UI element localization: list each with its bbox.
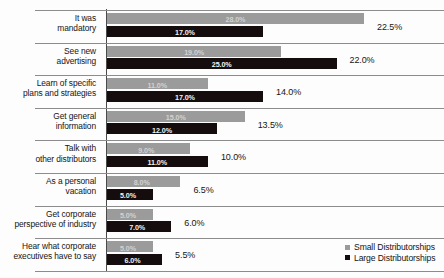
grid-line (35, 108, 444, 109)
bar-value-label: 5.0% (120, 245, 136, 252)
category-label: See new advertising (57, 46, 96, 66)
bar-value-label: 8.0% (134, 179, 150, 186)
grid-line (35, 43, 444, 44)
category-label: Hear what corporate executives have to s… (13, 241, 96, 261)
bar-value-label: 25.0% (212, 61, 232, 68)
bar-value-label: 11.0% (147, 159, 166, 166)
group-total-label: 13.5% (258, 121, 283, 130)
bar-value-label: 28.0% (226, 16, 246, 23)
category-label: As a personal vacation (46, 176, 96, 196)
grid-line (35, 75, 444, 76)
grid-line (35, 271, 444, 272)
bar-value-label: 15.0% (166, 114, 186, 121)
grid-line (35, 206, 444, 207)
group-total-label: 6.5% (193, 186, 213, 195)
category-label: Learn of specific plans and strategies (23, 78, 96, 98)
bar-value-label: 17.0% (175, 94, 195, 101)
bar-value-label: 9.0% (138, 147, 154, 154)
grid-line (35, 238, 444, 239)
legend-label-large: Large Distributorships (354, 254, 435, 263)
category-label: It was mandatory (57, 13, 96, 33)
bar-value-label: 12.0% (152, 127, 172, 134)
legend-item-small: Small Distributorships (345, 243, 435, 252)
group-total-label: 22.5% (377, 23, 402, 32)
legend-item-large: Large Distributorships (345, 254, 435, 263)
chart-legend: Small Distributorships Large Distributor… (345, 243, 435, 264)
category-label: Get corporate perspective of industry (15, 209, 97, 229)
bar-value-label: 17.0% (175, 29, 195, 36)
bar-value-label: 5.0% (120, 212, 136, 219)
bar-value-label: 11.0% (147, 82, 166, 89)
legend-swatch-large-icon (345, 255, 350, 260)
grid-line (35, 173, 444, 174)
grouped-bar-chart: It was mandatory28.0%17.0%22.5%See new a… (0, 0, 444, 278)
bar-value-label: 5.0% (120, 192, 136, 199)
category-label: Get general information (53, 111, 96, 131)
group-total-label: 22.0% (350, 56, 375, 65)
grid-line (35, 140, 444, 141)
legend-swatch-small-icon (345, 245, 350, 250)
bar-value-label: 19.0% (184, 49, 204, 56)
bar-value-label: 7.0% (129, 224, 145, 231)
group-total-label: 14.0% (276, 88, 301, 97)
group-total-label: 10.0% (221, 153, 246, 162)
bar-value-label: 6.0% (125, 257, 141, 264)
grid-line (35, 10, 444, 11)
legend-label-small: Small Distributorships (354, 243, 435, 252)
category-label: Talk with other distributors (35, 143, 96, 163)
group-total-label: 5.5% (175, 251, 195, 260)
group-total-label: 6.0% (184, 219, 204, 228)
